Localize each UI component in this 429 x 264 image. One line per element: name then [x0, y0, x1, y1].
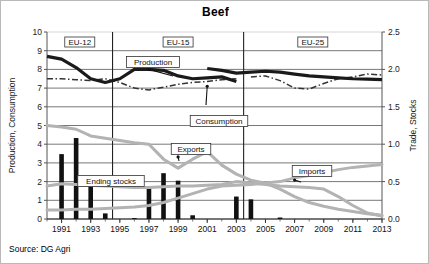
x-tick-label: 1999: [169, 224, 188, 234]
bar: [190, 215, 195, 219]
annotation-label: Exports: [177, 145, 204, 154]
x-tick-label: 2001: [198, 224, 217, 234]
annotation-arrow-head: [293, 179, 296, 182]
y-tick-label-left: 1: [37, 195, 42, 205]
y-axis-title-right: Trade, Stocks: [408, 99, 418, 151]
annotation-label: Imports: [299, 167, 326, 176]
y-tick-label-left: 0: [37, 214, 42, 224]
x-tick-label: 2005: [256, 224, 275, 234]
x-tick-label: 2013: [373, 224, 392, 234]
bar: [278, 218, 283, 219]
y-tick-label-left: 9: [37, 46, 42, 56]
region-label: EU-25: [301, 38, 324, 47]
x-tick-label: 2011: [344, 224, 363, 234]
x-tick-label: 2003: [227, 224, 246, 234]
y-tick-label-left: 8: [37, 64, 42, 74]
annotation-arrow-head: [176, 155, 179, 158]
y-tick-label-left: 6: [37, 102, 42, 112]
annotation-arrow-head: [206, 85, 209, 88]
bar: [234, 197, 239, 219]
beef-chart-plot: 0123456789100.00.51.01.52.02.51991199319…: [1, 1, 429, 264]
bar: [88, 184, 93, 219]
x-tick-label: 1995: [110, 224, 129, 234]
bar: [249, 199, 254, 219]
chart-figure: Beef 0123456789100.00.51.01.52.02.519911…: [0, 0, 429, 264]
y-tick-label-left: 10: [33, 27, 43, 37]
y-tick-label-right: 2.0: [388, 64, 400, 74]
region-label: EU-15: [167, 38, 190, 47]
bar: [103, 213, 108, 219]
y-tick-label-right: 1.5: [388, 102, 400, 112]
bar: [161, 173, 166, 219]
y-axis-title-left: Production, Consumption: [7, 78, 17, 174]
y-tick-label-left: 3: [37, 158, 42, 168]
bar: [132, 218, 137, 219]
annotation-label: Production: [134, 58, 172, 67]
y-tick-label-right: 1.0: [388, 139, 400, 149]
x-tick-label: 1993: [81, 224, 100, 234]
y-tick-label-right: 0.5: [388, 177, 400, 187]
y-tick-label-right: 0.0: [388, 214, 400, 224]
x-tick-label: 2009: [314, 224, 333, 234]
x-tick-label: 1997: [139, 224, 158, 234]
bar: [147, 188, 152, 219]
annotation-label: Ending stocks: [86, 177, 136, 186]
y-tick-label-left: 2: [37, 177, 42, 187]
y-tick-label-left: 4: [37, 139, 42, 149]
annotation-arrow-head: [147, 68, 150, 71]
region-label: EU-12: [68, 38, 91, 47]
source-note: Source: DG Agri: [9, 244, 70, 254]
annotation-label: Consumption: [195, 117, 242, 126]
y-tick-label-left: 5: [37, 121, 42, 131]
y-tick-label-left: 7: [37, 83, 42, 93]
x-tick-label: 1991: [52, 224, 71, 234]
x-tick-label: 2007: [285, 224, 304, 234]
y-tick-label-right: 2.5: [388, 27, 400, 37]
